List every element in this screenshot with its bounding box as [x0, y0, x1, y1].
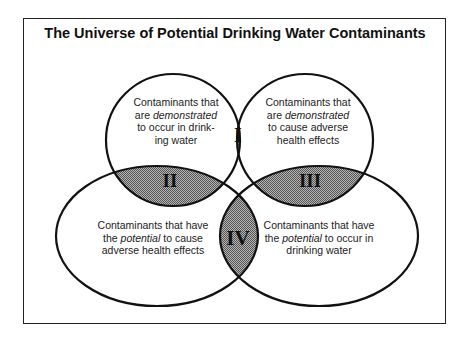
venn-diagram — [0, 0, 470, 339]
set-label-potential-health: Contaminants that have the potential to … — [78, 219, 228, 257]
set-label-demonstrated-occur: Contaminants that are demonstrated to oc… — [118, 96, 234, 146]
region-label-IV: IV — [216, 226, 260, 251]
set-label-demonstrated-health: Contaminants that are demonstrated to ca… — [250, 96, 366, 146]
region-label-I: I — [226, 124, 250, 147]
region-label-II: II — [150, 170, 190, 192]
region-label-III: III — [285, 170, 335, 192]
set-label-potential-occur: Contaminants that have the potential to … — [244, 219, 394, 257]
